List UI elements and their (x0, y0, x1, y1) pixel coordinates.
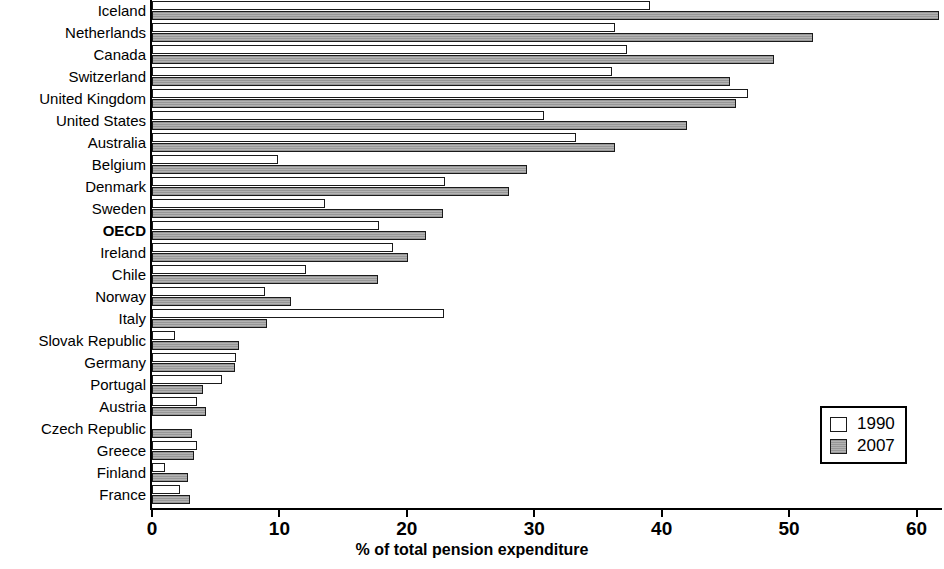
category-label: Denmark (0, 179, 146, 195)
x-tick-label: 50 (759, 518, 819, 540)
bar-1990 (152, 155, 278, 164)
legend-item-1990: 1990 (830, 413, 895, 435)
legend-swatch-2007-icon (830, 439, 847, 454)
x-tick (278, 509, 280, 517)
bar-group (152, 88, 944, 110)
x-tick (788, 509, 790, 517)
bar-2007 (152, 187, 509, 196)
category-axis-labels: IcelandNetherlandsCanadaSwitzerlandUnite… (0, 0, 146, 508)
category-label: Finland (0, 465, 146, 481)
category-label: Ireland (0, 245, 146, 261)
bar-2007 (152, 495, 190, 504)
category-label: Greece (0, 443, 146, 459)
x-tick-label: 20 (377, 518, 437, 540)
bar-1990 (152, 287, 265, 296)
x-tick-label: 30 (504, 518, 564, 540)
bar-group (152, 264, 944, 286)
bar-group (152, 374, 944, 396)
x-tick (533, 509, 535, 517)
bar-group (152, 308, 944, 330)
chart-legend: 1990 2007 (820, 406, 907, 464)
bar-2007 (152, 209, 443, 218)
bar-group (152, 44, 944, 66)
bar-2007 (152, 341, 239, 350)
bar-group (152, 242, 944, 264)
bar-1990 (152, 67, 612, 76)
bar-2007 (152, 165, 527, 174)
category-label: Norway (0, 289, 146, 305)
pension-expenditure-bar-chart: IcelandNetherlandsCanadaSwitzerlandUnite… (0, 0, 944, 569)
bar-2007 (152, 231, 426, 240)
bar-2007 (152, 473, 188, 482)
category-label: France (0, 487, 146, 503)
category-label: Australia (0, 135, 146, 151)
x-tick (406, 509, 408, 517)
bar-group (152, 110, 944, 132)
bar-1990 (152, 485, 180, 494)
bar-group (152, 22, 944, 44)
x-axis-title: % of total pension expenditure (0, 541, 944, 559)
bar-group (152, 154, 944, 176)
bar-group (152, 132, 944, 154)
bar-group (152, 0, 944, 22)
bar-2007 (152, 319, 267, 328)
legend-item-2007: 2007 (830, 435, 895, 457)
bar-group (152, 220, 944, 242)
x-tick-label: 10 (249, 518, 309, 540)
bar-1990 (152, 309, 444, 318)
category-label: Switzerland (0, 69, 146, 85)
legend-label-2007: 2007 (857, 436, 895, 456)
bar-group (152, 198, 944, 220)
bar-1990 (152, 177, 445, 186)
x-tick (916, 509, 918, 517)
bar-1990 (152, 199, 325, 208)
category-label: Chile (0, 267, 146, 283)
category-label: United States (0, 113, 146, 129)
bar-2007 (152, 33, 813, 42)
legend-swatch-1990-icon (830, 417, 847, 432)
bar-1990 (152, 353, 236, 362)
x-tick-label: 40 (632, 518, 692, 540)
category-label: Italy (0, 311, 146, 327)
category-label: Austria (0, 399, 146, 415)
category-label: Iceland (0, 3, 146, 19)
x-axis-line (152, 508, 942, 510)
bar-1990 (152, 23, 615, 32)
bar-1990 (152, 89, 748, 98)
bar-group (152, 176, 944, 198)
bar-2007 (152, 297, 291, 306)
bar-group (152, 66, 944, 88)
bar-group (152, 330, 944, 352)
category-label: Czech Republic (0, 421, 146, 437)
bar-2007 (152, 99, 736, 108)
bar-group (152, 352, 944, 374)
bar-1990 (152, 397, 197, 406)
category-label: Netherlands (0, 25, 146, 41)
bar-2007 (152, 407, 206, 416)
y-axis-line (150, 0, 152, 510)
bar-1990 (152, 1, 650, 10)
bar-2007 (152, 429, 192, 438)
category-label: OECD (0, 223, 146, 239)
bar-2007 (152, 11, 939, 20)
bar-2007 (152, 55, 774, 64)
bar-2007 (152, 385, 203, 394)
bar-1990 (152, 243, 393, 252)
category-label: Belgium (0, 157, 146, 173)
bar-1990 (152, 111, 544, 120)
x-tick-label: 60 (887, 518, 944, 540)
bar-group (152, 484, 944, 506)
bar-group (152, 462, 944, 484)
bar-group (152, 286, 944, 308)
category-label: Slovak Republic (0, 333, 146, 349)
category-label: Sweden (0, 201, 146, 217)
bar-1990 (152, 265, 306, 274)
category-label: Canada (0, 47, 146, 63)
bar-2007 (152, 451, 194, 460)
bar-2007 (152, 77, 730, 86)
x-tick (151, 509, 153, 517)
x-tick-label: 0 (122, 518, 182, 540)
bar-2007 (152, 121, 687, 130)
x-tick (661, 509, 663, 517)
bar-1990 (152, 133, 576, 142)
